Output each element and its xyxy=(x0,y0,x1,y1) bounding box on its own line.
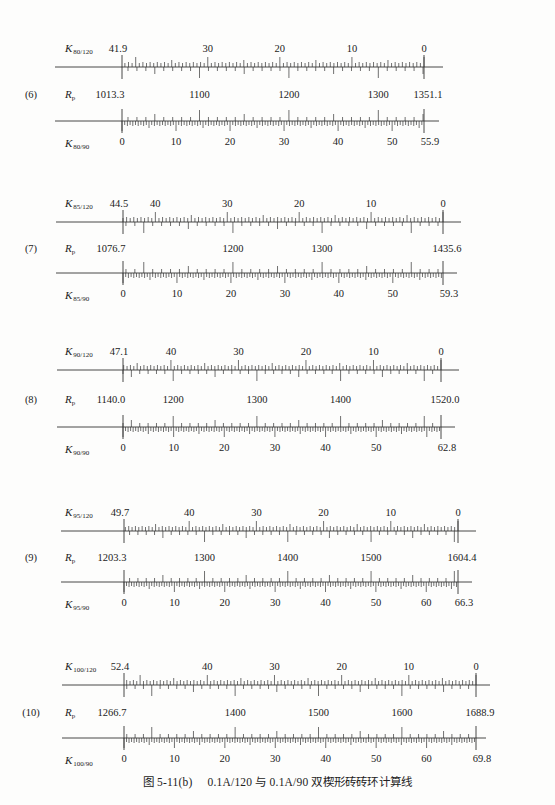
bottom-axis-label: 40 xyxy=(320,597,331,608)
rp-label: 1400 xyxy=(330,394,351,405)
rp-label: 1076.7 xyxy=(97,243,126,254)
bottom-axis-label: 30 xyxy=(279,136,290,147)
bottom-axis-label: 30 xyxy=(270,753,281,764)
top-axis-label: 30 xyxy=(222,198,233,209)
rp-axis-name: Rp xyxy=(64,242,76,256)
section-number: (9) xyxy=(25,552,38,564)
bottom-axis-label: 59.3 xyxy=(440,288,458,299)
top-axis-label: 40 xyxy=(184,507,195,518)
section-number: (7) xyxy=(25,243,38,255)
bottom-axis-label: 0 xyxy=(120,288,125,299)
rp-label: 1400 xyxy=(277,552,298,563)
top-axis-label: 0 xyxy=(438,346,443,357)
rp-label: 1100 xyxy=(189,89,210,100)
top-axis-label: 30 xyxy=(233,346,244,357)
top-axis-label: 10 xyxy=(386,507,397,518)
top-axis-name: K80/120 xyxy=(64,42,93,56)
top-axis-name: K95/120 xyxy=(64,506,93,520)
bottom-axis-label: 40 xyxy=(334,288,345,299)
bottom-axis-label: 20 xyxy=(225,136,236,147)
rp-label: 1688.9 xyxy=(466,707,495,718)
bottom-axis-label: 50 xyxy=(387,136,398,147)
bottom-axis-label: 20 xyxy=(226,288,237,299)
top-axis-label: 20 xyxy=(336,661,347,672)
rp-label: 1203.3 xyxy=(98,552,127,563)
bottom-axis-label: 30 xyxy=(280,288,291,299)
rp-label: 1435.6 xyxy=(433,243,462,254)
bottom-axis-label: 30 xyxy=(270,597,281,608)
top-axis-label: 44.5 xyxy=(110,198,128,209)
top-axis-label: 49.7 xyxy=(111,507,129,518)
nomogram-section-7: K85/12044.5403020100(7)Rp1076.7120013001… xyxy=(25,197,462,303)
rp-label: 1351.1 xyxy=(414,89,443,100)
bottom-axis-label: 10 xyxy=(169,753,180,764)
bottom-axis-label: 40 xyxy=(320,442,331,453)
bottom-axis-label: 0 xyxy=(119,136,124,147)
bottom-axis-name: K80/90 xyxy=(64,137,90,151)
rp-label: 1200 xyxy=(278,89,299,100)
bottom-axis-label: 60 xyxy=(421,597,432,608)
bottom-axis-label: 20 xyxy=(220,753,231,764)
top-axis-label: 40 xyxy=(150,198,161,209)
rp-label: 1266.7 xyxy=(98,707,127,718)
top-axis-name: K85/120 xyxy=(64,197,93,211)
rp-label: 1604.4 xyxy=(448,552,478,563)
rp-label: 1400 xyxy=(225,707,246,718)
rp-label: 1300 xyxy=(194,552,215,563)
rp-label: 1500 xyxy=(308,707,329,718)
bottom-axis-label: 40 xyxy=(333,136,344,147)
top-axis-label: 30 xyxy=(269,661,280,672)
section-number: (6) xyxy=(25,89,38,101)
rp-label: 1013.3 xyxy=(96,89,125,100)
rp-axis-name: Rp xyxy=(64,88,76,102)
top-axis-label: 10 xyxy=(347,43,358,54)
top-axis-label: 10 xyxy=(404,661,415,672)
top-axis-label: 30 xyxy=(251,507,262,518)
rp-label: 1140.0 xyxy=(97,394,126,405)
section-number: (10) xyxy=(22,707,40,719)
top-axis-label: 30 xyxy=(203,43,214,54)
bottom-axis-label: 20 xyxy=(219,442,230,453)
bottom-axis-label: 60 xyxy=(421,753,432,764)
bottom-axis-label: 62.8 xyxy=(438,442,456,453)
bottom-axis-label: 50 xyxy=(371,442,382,453)
bottom-axis-name: K100/90 xyxy=(64,754,93,768)
bottom-axis-label: 0 xyxy=(120,442,125,453)
top-axis-label: 10 xyxy=(368,346,379,357)
figure-caption: 图 5-11(b) 0.1A/120 与 0.1A/90 双楔形砖砖环计算线 xyxy=(0,773,555,789)
nomogram-section-10: K100/12052.4403020100(10)Rp1266.71400150… xyxy=(22,660,494,768)
bottom-axis-label: 40 xyxy=(320,753,331,764)
top-axis-label: 47.1 xyxy=(110,346,128,357)
rp-label: 1300 xyxy=(246,394,267,405)
top-axis-label: 20 xyxy=(318,507,329,518)
bottom-axis-label: 55.9 xyxy=(421,136,439,147)
bottom-axis-label: 20 xyxy=(220,597,231,608)
top-axis-name: K100/120 xyxy=(64,660,97,674)
bottom-axis-label: 50 xyxy=(371,597,382,608)
rp-axis-name: Rp xyxy=(64,393,76,407)
bottom-axis-label: 0 xyxy=(121,753,126,764)
top-axis-label: 0 xyxy=(421,43,426,54)
top-axis-label: 0 xyxy=(440,198,445,209)
rp-label: 1300 xyxy=(368,89,389,100)
rp-label: 1200 xyxy=(163,394,184,405)
figure-number: 图 5-11(b) xyxy=(143,776,193,788)
nomogram-section-6: K80/12041.93020100(6)Rp1013.311001200130… xyxy=(25,42,443,151)
bottom-axis-label: 50 xyxy=(388,288,399,299)
bottom-axis-label: 10 xyxy=(172,288,183,299)
figure-title: 0.1A/120 与 0.1A/90 双楔形砖砖环计算线 xyxy=(208,776,413,788)
rp-label: 1600 xyxy=(391,707,412,718)
section-number: (8) xyxy=(25,394,38,406)
bottom-axis-label: 69.8 xyxy=(473,753,491,764)
nomogram-section-8: K90/12047.1403020100(8)Rp1140.0120013001… xyxy=(25,345,460,457)
top-axis-label: 40 xyxy=(202,661,213,672)
brick-ring-nomogram: K80/12041.93020100(6)Rp1013.311001200130… xyxy=(0,0,555,805)
top-axis-label: 20 xyxy=(275,43,286,54)
top-axis-label: 0 xyxy=(455,507,460,518)
rp-label: 1300 xyxy=(312,243,333,254)
top-axis-label: 41.9 xyxy=(109,43,127,54)
bottom-axis-label: 50 xyxy=(371,753,382,764)
top-axis-label: 0 xyxy=(473,661,478,672)
rp-label: 1520.0 xyxy=(431,394,460,405)
bottom-axis-label: 10 xyxy=(168,442,179,453)
